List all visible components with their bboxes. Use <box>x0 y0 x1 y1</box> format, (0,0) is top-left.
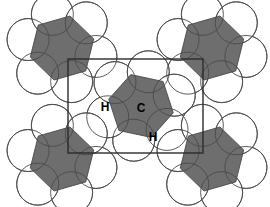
hydrogen-atom-label-left: H <box>101 100 110 114</box>
hydrogen-atom-label-bottom: H <box>149 130 158 144</box>
crystal-packing-figure: C H H <box>0 0 270 207</box>
carbon-atom-label: C <box>137 101 146 115</box>
crystal-structure-svg: C H H <box>0 0 270 207</box>
